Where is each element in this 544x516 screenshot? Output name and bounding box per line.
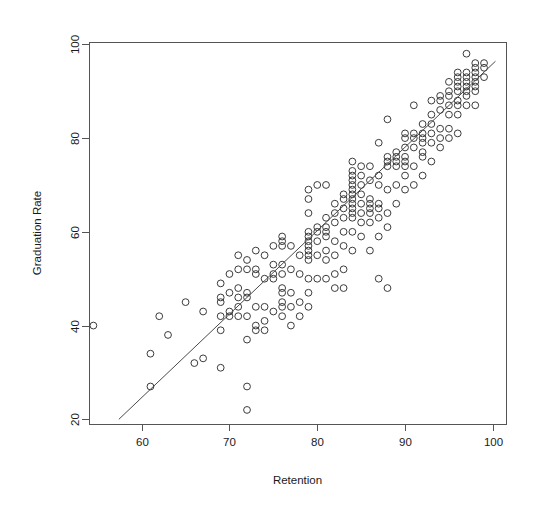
scatter-point — [305, 186, 312, 193]
scatter-point — [428, 130, 435, 137]
scatter-point — [244, 266, 251, 273]
scatter-point — [481, 60, 488, 67]
scatter-point — [244, 383, 251, 390]
scatter-point — [393, 149, 400, 156]
y-tick-label: 20 — [69, 413, 81, 426]
scatter-point — [244, 336, 251, 343]
scatter-point — [217, 313, 224, 320]
scatter-point — [410, 130, 417, 137]
scatter-point — [261, 252, 268, 259]
y-axis-ticks — [82, 45, 89, 420]
scatter-point — [296, 313, 303, 320]
scatter-point — [288, 242, 295, 249]
scatter-point — [384, 210, 391, 217]
scatter-plot-figure: 60708090100 20406080100 Retention Gradua… — [0, 0, 544, 516]
scatter-point — [367, 163, 374, 170]
scatter-point — [375, 275, 382, 282]
regression-fit-line — [119, 61, 496, 419]
scatter-point — [331, 271, 338, 278]
scatter-point — [279, 271, 286, 278]
scatter-point — [244, 313, 251, 320]
scatter-point — [305, 228, 312, 235]
scatter-point — [305, 303, 312, 310]
scatter-point — [288, 289, 295, 296]
scatter-point — [288, 303, 295, 310]
scatter-point — [279, 299, 286, 306]
scatter-point — [419, 149, 426, 156]
scatter-point — [331, 219, 338, 226]
scatter-point — [358, 163, 365, 170]
scatter-point — [235, 294, 242, 301]
scatter-point — [217, 294, 224, 301]
scatter-point — [437, 144, 444, 151]
scatter-point — [226, 271, 233, 278]
scatter-point — [331, 238, 338, 245]
scatter-point — [454, 111, 461, 118]
scatter-point — [375, 172, 382, 179]
scatter-point — [340, 285, 347, 292]
scatter-point — [349, 247, 356, 254]
scatter-point — [340, 266, 347, 273]
scatter-point — [340, 214, 347, 221]
scatter-point — [384, 186, 391, 193]
scatter-point — [296, 299, 303, 306]
scatter-point — [305, 275, 312, 282]
scatter-point — [358, 219, 365, 226]
scatter-point — [410, 102, 417, 109]
scatter-point — [261, 303, 268, 310]
scatter-point — [375, 233, 382, 240]
scatter-point — [446, 125, 453, 132]
scatter-point — [90, 322, 97, 329]
scatter-point — [454, 97, 461, 104]
scatter-point — [349, 168, 356, 175]
scatter-point — [375, 182, 382, 189]
scatter-point — [217, 327, 224, 334]
scatter-point — [454, 69, 461, 76]
y-axis-tick-labels: 20406080100 — [69, 35, 81, 426]
scatter-point — [463, 50, 470, 57]
scatter-point — [437, 135, 444, 142]
x-axis-ticks — [143, 424, 494, 431]
plot-canvas: 60708090100 20406080100 Retention Gradua… — [0, 0, 544, 516]
scatter-point — [147, 350, 154, 357]
scatter-point — [252, 266, 259, 273]
scatter-point — [384, 285, 391, 292]
scatter-point — [305, 196, 312, 203]
scatter-point — [402, 186, 409, 193]
scatter-point — [331, 252, 338, 259]
scatter-point — [393, 200, 400, 207]
regression-layer — [119, 61, 496, 419]
scatter-point — [410, 163, 417, 170]
scatter-point — [252, 247, 259, 254]
scatter-point — [428, 139, 435, 146]
scatter-point — [358, 191, 365, 198]
scatter-point — [314, 182, 321, 189]
scatter-point — [410, 182, 417, 189]
scatter-point — [156, 313, 163, 320]
scatter-point — [340, 242, 347, 249]
scatter-point — [270, 308, 277, 315]
scatter-points — [90, 50, 487, 413]
data-points-layer — [90, 50, 487, 413]
scatter-point — [191, 360, 198, 367]
scatter-point — [296, 271, 303, 278]
y-tick-label: 60 — [69, 226, 81, 239]
scatter-point — [428, 158, 435, 165]
scatter-point — [454, 130, 461, 137]
scatter-point — [437, 125, 444, 132]
x-tick-label: 80 — [311, 436, 324, 448]
scatter-point — [446, 78, 453, 85]
scatter-point — [279, 233, 286, 240]
scatter-point — [410, 144, 417, 151]
scatter-point — [358, 172, 365, 179]
scatter-point — [235, 285, 242, 292]
scatter-point — [235, 313, 242, 320]
scatter-point — [331, 285, 338, 292]
scatter-point — [279, 313, 286, 320]
scatter-point — [244, 407, 251, 414]
x-tick-label: 90 — [399, 436, 412, 448]
scatter-point — [279, 285, 286, 292]
scatter-point — [358, 200, 365, 207]
scatter-point — [235, 303, 242, 310]
scatter-point — [358, 233, 365, 240]
